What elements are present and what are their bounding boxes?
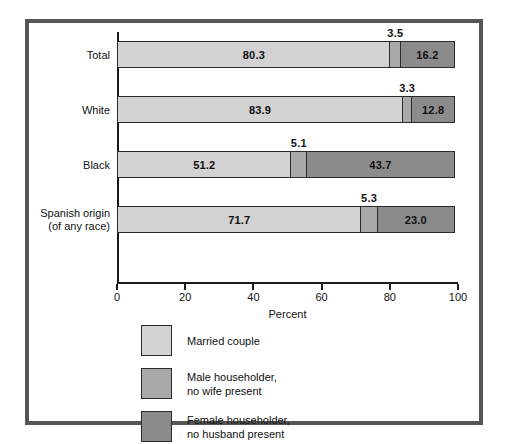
bar-segment: 5.3: [360, 206, 378, 233]
x-axis-tick-label: 80: [384, 291, 396, 303]
bar-value-label: 71.7: [228, 214, 250, 226]
stacked-bar: 51.25.143.7: [117, 151, 455, 178]
bar-segment: 43.7: [306, 151, 455, 178]
x-axis-tick-label: 0: [114, 291, 120, 303]
bar-value-label: 3.5: [387, 27, 403, 39]
x-axis-tick-label: 100: [449, 291, 467, 303]
category-label: Total: [87, 48, 110, 61]
x-axis-tick-label: 20: [179, 291, 191, 303]
bar-segment: 51.2: [117, 151, 292, 178]
x-axis-tick: [252, 284, 254, 290]
x-axis-tick: [116, 284, 118, 290]
bar-value-label: 16.2: [416, 49, 438, 61]
x-axis-tick: [321, 284, 323, 290]
x-axis-tick-label: 40: [247, 291, 259, 303]
bar-value-label: 83.9: [249, 104, 271, 116]
category-label: White: [82, 103, 110, 116]
x-axis-tick-label: 60: [315, 291, 327, 303]
legend-item[interactable]: Male householder,no wife present: [141, 368, 290, 399]
x-axis-line: [117, 282, 458, 284]
bar-value-label: 80.3: [243, 49, 265, 61]
bar-segment: 16.2: [400, 41, 455, 68]
category-label: Spanish origin(of any race): [40, 207, 110, 233]
bar-value-label: 12.8: [422, 104, 444, 116]
bar-segment: 12.8: [411, 96, 455, 123]
legend-label: Married couple: [187, 334, 260, 348]
plot-area: Total80.33.516.2White83.93.312.8Black51.…: [29, 23, 487, 429]
legend-item[interactable]: Female householder,no husband present: [141, 411, 290, 442]
legend-item[interactable]: Married couple: [141, 325, 290, 356]
x-axis-title: Percent: [117, 308, 458, 320]
bar-segment: 80.3: [117, 41, 391, 68]
bar-value-label: 43.7: [369, 159, 391, 171]
stacked-bar: 80.33.516.2: [117, 41, 455, 68]
legend-swatch: [141, 411, 172, 442]
bar-segment: 5.1: [290, 151, 307, 178]
x-axis-tick: [184, 284, 186, 290]
legend-label: Female householder,no husband present: [187, 413, 290, 441]
bar-segment: 23.0: [377, 206, 455, 233]
category-label: Black: [83, 158, 110, 171]
bar-value-label: 5.1: [291, 137, 307, 149]
bar-segment: 71.7: [117, 206, 361, 233]
x-axis-tick: [389, 284, 391, 290]
bar-segment: 83.9: [117, 96, 403, 123]
bar-value-label: 23.0: [405, 214, 427, 226]
bar-value-label: 3.3: [399, 82, 415, 94]
bar-value-label: 5.3: [361, 192, 377, 204]
legend-label: Male householder,no wife present: [187, 370, 277, 398]
bar-value-label: 51.2: [193, 159, 215, 171]
figure-frame: Total80.33.516.2White83.93.312.8Black51.…: [25, 19, 483, 425]
stacked-bar: 83.93.312.8: [117, 96, 455, 123]
x-axis-tick: [457, 284, 459, 290]
legend-swatch: [141, 325, 172, 356]
chart-legend: Married coupleMale householder,no wife p…: [141, 325, 290, 444]
stacked-bar: 71.75.323.0: [117, 206, 455, 233]
legend-swatch: [141, 368, 172, 399]
